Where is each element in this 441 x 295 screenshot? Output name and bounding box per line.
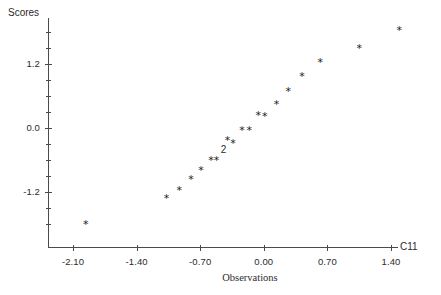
data-point: * [187, 175, 196, 184]
data-point: * [212, 156, 221, 165]
y-minor-tick-6 [46, 160, 51, 161]
data-point: * [316, 58, 325, 67]
x-tick-2 [200, 245, 201, 251]
data-point: * [197, 166, 206, 175]
x-tick-label-1: -1.40 [114, 256, 160, 267]
y-tick-2 [45, 192, 52, 193]
data-point: * [272, 100, 281, 109]
data-point: * [228, 139, 237, 148]
x-tick-4 [327, 245, 328, 251]
x-tick-3 [264, 245, 265, 251]
overlap-count-label: 2 [221, 144, 227, 155]
x-tick-0 [73, 245, 74, 251]
y-tick-1 [45, 128, 52, 129]
scatter-plot-canvas: Scores Observations C11 -2.10-1.40-0.700… [0, 0, 441, 295]
x-axis-title: Observations [205, 272, 295, 283]
data-point: * [395, 26, 404, 35]
data-point: * [245, 126, 254, 135]
y-minor-tick-7 [46, 176, 51, 177]
data-point: * [260, 112, 269, 121]
data-point: * [297, 72, 306, 81]
x-tick-label-5: 1.40 [368, 256, 414, 267]
data-point: * [355, 44, 364, 53]
series-label-c11: C11 [400, 241, 418, 252]
x-tick-label-4: 0.70 [304, 256, 350, 267]
data-point: * [81, 220, 90, 229]
y-minor-tick-3 [46, 96, 51, 97]
y-axis-line [48, 18, 49, 248]
y-tick-label-2: -1.2 [6, 186, 40, 197]
x-tick-1 [137, 245, 138, 251]
y-minor-tick-9 [46, 224, 51, 225]
y-tick-label-1: 0.0 [6, 122, 40, 133]
data-point: * [175, 186, 184, 195]
y-tick-label-0: 1.2 [6, 58, 40, 69]
y-minor-tick-4 [46, 112, 51, 113]
y-minor-tick-8 [46, 208, 51, 209]
data-point: * [284, 87, 293, 96]
y-axis-title: Scores [8, 7, 39, 18]
y-minor-tick-1 [46, 48, 51, 49]
x-axis-line [48, 247, 398, 248]
y-minor-tick-0 [46, 32, 51, 33]
y-tick-0 [45, 64, 52, 65]
x-tick-label-2: -0.70 [177, 256, 223, 267]
x-tick-label-3: 0.00 [241, 256, 287, 267]
data-point: * [162, 194, 171, 203]
x-tick-label-0: -2.10 [50, 256, 96, 267]
y-minor-tick-2 [46, 80, 51, 81]
x-tick-5 [391, 245, 392, 251]
y-minor-tick-5 [46, 144, 51, 145]
